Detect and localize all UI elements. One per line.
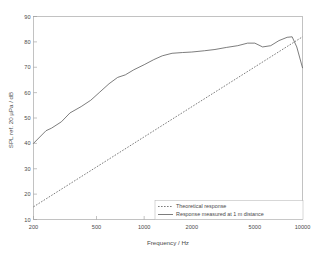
figure-container: 102030405060708090 200500100020005000100… [0, 0, 328, 263]
x-tick-label: 500 [92, 224, 101, 230]
y-tick-label: 50 [24, 115, 30, 121]
legend-label-measured: Response measured at 1 m distance [176, 211, 264, 217]
y-tick-label: 70 [24, 64, 30, 70]
y-tick-label: 20 [24, 191, 30, 197]
x-tick-label: 200 [29, 224, 38, 230]
y-tick-label: 40 [24, 140, 30, 146]
series-measured-response [34, 37, 303, 144]
y-tick-label: 60 [24, 90, 30, 96]
x-axis-title: Frequency / Hz [147, 239, 189, 246]
legend-label-theoretical: Theoretical response [176, 203, 226, 209]
legend: Theoretical response Response measured a… [155, 201, 303, 220]
series-theoretical-response [34, 37, 303, 207]
y-axis-title: SPL ref. 20 µPa / dB [7, 92, 14, 148]
x-tick-label: 1000 [138, 224, 150, 230]
x-tick-label: 5000 [249, 224, 261, 230]
x-tick-label: 2000 [186, 224, 198, 230]
y-axis-ticks: 102030405060708090 [24, 14, 37, 223]
y-tick-label: 30 [24, 166, 30, 172]
frequency-response-chart: 102030405060708090 200500100020005000100… [0, 0, 328, 263]
y-tick-label: 80 [24, 39, 30, 45]
y-tick-label: 90 [24, 14, 30, 20]
y-tick-label: 10 [24, 217, 30, 223]
x-tick-label: 10000 [295, 224, 311, 230]
